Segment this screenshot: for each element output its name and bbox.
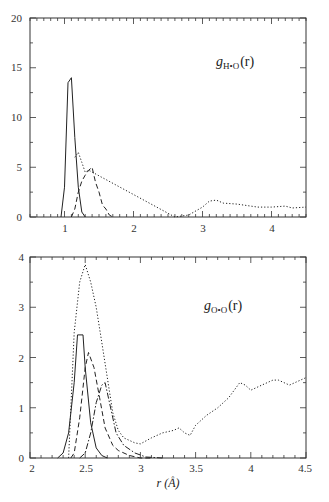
- bottom-xtick-3-5: 3.5: [189, 462, 203, 474]
- top-ytick-5: 5: [17, 161, 23, 173]
- bottom-xtick-4-5: 4.5: [298, 462, 312, 474]
- bottom-curves: [58, 265, 306, 459]
- top-annot-sub: H•O: [223, 61, 240, 71]
- bottom-xtick-2: 2: [29, 462, 35, 474]
- curve-dotted: [75, 152, 306, 217]
- bottom-ytick-4: 4: [19, 251, 25, 263]
- top-xtick-4: 4: [269, 222, 275, 234]
- bottom-annot-sub: O•O: [211, 305, 228, 315]
- top-xtick-1: 1: [62, 222, 68, 234]
- bottom-ytick-2: 2: [19, 352, 25, 364]
- curve-dash-dot: [80, 383, 163, 458]
- bottom-axis-ticks: [30, 257, 306, 458]
- top-plot-frame: [30, 18, 306, 217]
- top-axis-ticks: [30, 18, 306, 217]
- bottom-panel-annotation: gO•O(r): [204, 298, 242, 315]
- bottom-annot-arg: (r): [228, 298, 242, 314]
- top-xtick-3: 3: [200, 222, 206, 234]
- bottom-ytick-0: 0: [19, 452, 25, 464]
- bottom-ytick-3: 3: [19, 301, 25, 313]
- bottom-xtick-4: 4: [248, 462, 254, 474]
- curve-dashed: [71, 353, 152, 459]
- bottom-plot-frame: [30, 257, 306, 458]
- curve-dotted: [69, 265, 306, 459]
- top-ytick-0: 0: [17, 211, 23, 223]
- bottom-x-tick-labels: 2 2.5 3 3.5 4 4.5: [29, 462, 312, 474]
- top-ytick-15: 15: [11, 61, 23, 73]
- top-ytick-10: 10: [11, 111, 23, 123]
- top-x-tick-labels: 1 2 3 4: [62, 222, 275, 234]
- top-annot-arg: (r): [240, 54, 254, 70]
- top-curves: [61, 78, 306, 217]
- bottom-y-tick-labels: 0 1 2 3 4: [19, 251, 25, 464]
- top-ytick-20: 20: [11, 12, 23, 24]
- bottom-panel-gOO: 0 1 2 3 4 2 2.5 3 3.5 4 4.5 r (Å) gO•O(r…: [19, 251, 313, 490]
- top-xtick-2: 2: [131, 222, 137, 234]
- bottom-xtick-2-5: 2.5: [79, 462, 93, 474]
- top-panel-gHO: 0 5 10 15 20 1 2 3 4 gH•O(r): [11, 12, 306, 234]
- top-panel-annotation: gH•O(r): [216, 54, 254, 71]
- top-y-tick-labels: 0 5 10 15 20: [11, 12, 23, 223]
- curve-solid: [61, 78, 85, 217]
- rdf-figure: 0 5 10 15 20 1 2 3 4 gH•O(r) 0 1 2 3 4 2: [0, 0, 329, 502]
- top-annot-g: g: [216, 54, 223, 69]
- bottom-ytick-1: 1: [19, 402, 25, 414]
- bottom-x-axis-label: r (Å): [157, 476, 180, 490]
- bottom-xtick-3: 3: [138, 462, 144, 474]
- bottom-annot-g: g: [204, 298, 211, 313]
